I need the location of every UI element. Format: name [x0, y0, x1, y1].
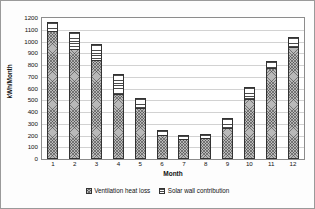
bar-column: [109, 18, 128, 159]
stacked-bar[interactable]: [288, 37, 299, 159]
legend-label: Solar wall contribution: [168, 187, 230, 194]
legend-item[interactable]: Solar wall contribution: [159, 187, 229, 194]
y-axis-tick: 200: [28, 131, 38, 138]
stacked-bar-chart: kWh/Month 120011001000900800700600500400…: [0, 0, 315, 209]
bar-segment-ventilation-heat-loss[interactable]: [289, 48, 298, 158]
bar-column: [283, 18, 302, 159]
stacked-bar[interactable]: [47, 22, 58, 159]
bar-group: [42, 18, 304, 159]
y-axis-tick: 600: [28, 84, 38, 91]
y-axis-title-text: kWh/Month: [6, 64, 13, 98]
y-axis-tick: 100: [28, 143, 38, 150]
y-axis-tick: 1200: [24, 14, 38, 21]
bar-segment-solar-wall-contribution[interactable]: [245, 88, 254, 101]
x-axis-title: Month: [42, 170, 304, 177]
bar-column: [218, 18, 237, 159]
bar-column: [131, 18, 150, 159]
bar-segment-ventilation-heat-loss[interactable]: [70, 50, 79, 158]
y-axis-title: kWh/Month: [2, 1, 16, 161]
bar-column: [65, 18, 84, 159]
y-axis-tick: 900: [28, 49, 38, 56]
chart-legend: Ventilation heat lossSolar wall contribu…: [1, 187, 314, 194]
bar-segment-solar-wall-contribution[interactable]: [48, 23, 57, 32]
bar-column: [196, 18, 215, 159]
bar-segment-ventilation-heat-loss[interactable]: [158, 136, 167, 158]
bar-segment-solar-wall-contribution[interactable]: [289, 38, 298, 48]
y-axis-tick: 300: [28, 119, 38, 126]
x-axis-tick: 1: [43, 160, 62, 167]
stacked-bar[interactable]: [266, 61, 277, 159]
bar-segment-ventilation-heat-loss[interactable]: [114, 95, 123, 158]
bar-segment-ventilation-heat-loss[interactable]: [223, 129, 232, 158]
bar-segment-ventilation-heat-loss[interactable]: [179, 140, 188, 158]
stacked-bar[interactable]: [200, 134, 211, 159]
bar-segment-ventilation-heat-loss[interactable]: [48, 32, 57, 158]
x-axis-tick: 9: [218, 160, 237, 167]
y-axis-tick: 400: [28, 108, 38, 115]
bar-column: [152, 18, 171, 159]
bar-column: [240, 18, 259, 159]
bar-segment-solar-wall-contribution[interactable]: [114, 75, 123, 96]
x-axis-tick: 12: [283, 160, 302, 167]
bar-segment-ventilation-heat-loss[interactable]: [136, 109, 145, 158]
x-axis-tick: 8: [196, 160, 215, 167]
stacked-bar[interactable]: [91, 44, 102, 159]
bar-segment-solar-wall-contribution[interactable]: [136, 99, 145, 110]
bar-segment-ventilation-heat-loss[interactable]: [92, 61, 101, 158]
x-axis-tick: 6: [152, 160, 171, 167]
stacked-bar[interactable]: [178, 135, 189, 159]
bar-segment-ventilation-heat-loss[interactable]: [267, 69, 276, 158]
legend-label: Ventilation heat loss: [94, 187, 150, 194]
x-axis-tick: 10: [240, 160, 259, 167]
plot-area: [41, 17, 305, 160]
y-axis-tick: 800: [28, 61, 38, 68]
x-axis-tick: 5: [131, 160, 150, 167]
bar-column: [87, 18, 106, 159]
striped-swatch-icon: [159, 188, 165, 194]
x-axis-tick: 4: [109, 160, 128, 167]
x-axis-tick-labels: 123456789101112: [42, 160, 304, 170]
stacked-bar[interactable]: [69, 32, 80, 159]
x-axis-tick: 7: [174, 160, 193, 167]
bar-segment-solar-wall-contribution[interactable]: [223, 119, 232, 130]
x-axis-tick: 11: [262, 160, 281, 167]
bar-column: [174, 18, 193, 159]
stacked-bar[interactable]: [222, 118, 233, 159]
bar-column: [43, 18, 62, 159]
x-axis-tick: 3: [87, 160, 106, 167]
bar-segment-ventilation-heat-loss[interactable]: [245, 100, 254, 158]
stacked-bar[interactable]: [244, 87, 255, 159]
bar-segment-solar-wall-contribution[interactable]: [267, 62, 276, 69]
y-axis-tick-labels: 1200110010009008007006005004003002001000: [15, 14, 39, 161]
cross-hatch-swatch-icon: [86, 188, 92, 194]
bar-segment-solar-wall-contribution[interactable]: [70, 33, 79, 49]
x-axis-tick: 2: [65, 160, 84, 167]
bar-column: [262, 18, 281, 159]
y-axis-tick: 0: [35, 155, 38, 162]
y-axis-tick: 700: [28, 72, 38, 79]
bar-segment-ventilation-heat-loss[interactable]: [201, 139, 210, 158]
bar-segment-solar-wall-contribution[interactable]: [92, 45, 101, 61]
legend-item[interactable]: Ventilation heat loss: [86, 187, 151, 194]
y-axis-tick: 500: [28, 96, 38, 103]
stacked-bar[interactable]: [135, 98, 146, 159]
y-axis-tick: 1100: [25, 25, 38, 32]
stacked-bar[interactable]: [113, 74, 124, 159]
stacked-bar[interactable]: [157, 130, 168, 159]
y-axis-tick: 1000: [24, 37, 38, 44]
